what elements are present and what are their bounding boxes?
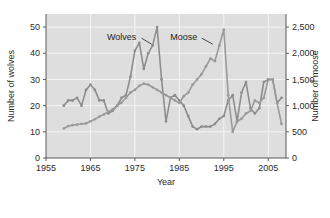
data-point-wolves	[129, 75, 132, 78]
data-point-wolves	[147, 52, 150, 55]
data-point-moose	[142, 82, 145, 85]
data-point-wolves	[196, 128, 199, 131]
data-point-moose	[94, 118, 97, 121]
x-axis-tick-label: 1985	[169, 163, 189, 173]
data-point-wolves	[262, 81, 265, 84]
data-point-moose	[254, 99, 257, 102]
data-point-moose	[222, 28, 225, 31]
series-line-moose	[64, 30, 282, 132]
data-point-wolves	[258, 107, 261, 110]
x-axis-tick-label: 1965	[80, 163, 100, 173]
leader-line-moose	[202, 38, 213, 44]
data-point-moose	[236, 120, 239, 123]
data-point-moose	[227, 94, 230, 97]
data-point-moose	[214, 60, 217, 63]
data-point-moose	[174, 99, 177, 102]
x-axis-tick-label: 2005	[258, 163, 278, 173]
y-axis-left-tick-label: 30	[30, 75, 40, 85]
chart-canvas: 0102030405005001,0001,5002,0002,50019551…	[0, 0, 330, 218]
x-axis-tick-label: 1995	[214, 163, 234, 173]
series-line-wolves	[64, 27, 282, 129]
data-point-moose	[196, 78, 199, 81]
data-point-moose	[80, 123, 83, 126]
leader-line-wolves	[142, 38, 152, 44]
data-point-wolves	[142, 68, 145, 71]
data-point-moose	[169, 96, 172, 99]
data-point-moose	[276, 102, 279, 105]
data-point-wolves	[254, 112, 257, 115]
data-point-wolves	[89, 83, 92, 86]
data-point-wolves	[102, 99, 105, 102]
data-point-wolves	[160, 78, 163, 81]
data-point-moose	[62, 127, 65, 130]
data-point-moose	[116, 104, 119, 107]
data-point-moose	[125, 96, 128, 99]
data-point-moose	[160, 91, 163, 94]
data-point-moose	[111, 108, 114, 111]
data-point-wolves	[94, 89, 97, 92]
series-annotation-moose: Moose	[170, 32, 197, 42]
data-point-wolves	[191, 125, 194, 128]
series-annotation-wolves: Wolves	[107, 32, 137, 42]
y-axis-left-tick-label: 0	[35, 153, 40, 163]
y-axis-left-tick-label: 10	[30, 127, 40, 137]
x-axis-title: Year	[157, 177, 175, 187]
data-point-moose	[71, 124, 74, 127]
data-point-moose	[178, 102, 181, 105]
data-point-wolves	[151, 44, 154, 47]
data-point-moose	[151, 86, 154, 89]
data-point-wolves	[67, 99, 70, 102]
data-point-moose	[231, 130, 234, 133]
data-point-wolves	[245, 81, 248, 84]
data-point-wolves	[231, 94, 234, 97]
data-point-wolves	[205, 125, 208, 128]
data-point-moose	[107, 111, 110, 114]
data-point-wolves	[71, 99, 74, 102]
y-axis-left-tick-label: 40	[30, 48, 40, 58]
data-point-wolves	[98, 99, 101, 102]
data-point-wolves	[174, 94, 177, 97]
data-point-wolves	[62, 104, 65, 107]
data-point-wolves	[280, 96, 283, 99]
data-point-wolves	[76, 96, 79, 99]
data-point-moose	[187, 91, 190, 94]
data-point-wolves	[187, 115, 190, 118]
data-point-moose	[134, 89, 137, 92]
data-point-moose	[120, 101, 123, 104]
y-axis-left-title: Number of wolves	[6, 49, 16, 122]
x-axis-tick-label: 1955	[36, 163, 56, 173]
data-point-moose	[249, 110, 252, 113]
data-point-moose	[85, 122, 88, 125]
data-point-moose	[205, 65, 208, 68]
y-axis-right-tick-label: 500	[292, 127, 307, 137]
data-point-moose	[191, 83, 194, 86]
data-point-wolves	[218, 117, 221, 120]
data-point-moose	[200, 73, 203, 76]
data-point-moose	[129, 91, 132, 94]
data-point-wolves	[209, 125, 212, 128]
data-point-moose	[98, 115, 101, 118]
data-point-moose	[102, 113, 105, 116]
data-point-wolves	[134, 49, 137, 52]
data-point-wolves	[138, 41, 141, 44]
y-axis-right-title: Number of moose	[310, 50, 320, 122]
data-point-moose	[165, 94, 168, 97]
data-point-moose	[218, 44, 221, 47]
data-point-moose	[262, 96, 265, 99]
data-point-wolves	[222, 115, 225, 118]
data-point-wolves	[182, 104, 185, 107]
data-point-moose	[182, 95, 185, 98]
data-point-moose	[258, 102, 261, 105]
x-axis-tick-label: 1975	[125, 163, 145, 173]
data-point-wolves	[240, 91, 243, 94]
data-point-moose	[67, 125, 70, 128]
y-axis-right-tick-label: 0	[292, 153, 297, 163]
data-point-moose	[138, 84, 141, 87]
data-point-wolves	[80, 104, 83, 107]
data-point-moose	[267, 78, 270, 81]
y-axis-left-tick-label: 50	[30, 22, 40, 32]
data-point-moose	[245, 112, 248, 115]
data-point-moose	[240, 117, 243, 120]
data-point-wolves	[165, 120, 168, 123]
data-point-moose	[209, 57, 212, 60]
